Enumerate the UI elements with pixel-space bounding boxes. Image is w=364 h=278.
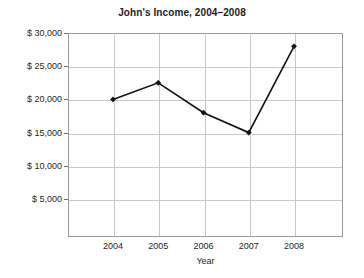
gridline-horizontal <box>69 100 342 101</box>
gridline-vertical <box>250 34 251 236</box>
y-tick-label: $ 25,000 <box>0 61 62 71</box>
plot-area <box>68 33 343 237</box>
y-tick-mark <box>64 199 68 200</box>
x-tick-label: 2006 <box>179 241 229 251</box>
chart-title: John's Income, 2004–2008 <box>0 7 364 18</box>
gridline-vertical <box>159 34 160 236</box>
x-tick-label: 2008 <box>269 241 319 251</box>
gridline-vertical <box>114 34 115 236</box>
x-tick-label: 2004 <box>88 241 138 251</box>
x-tick-label: 2005 <box>133 241 183 251</box>
y-tick-mark <box>64 66 68 67</box>
y-tick-label: $ 20,000 <box>0 94 62 104</box>
gridline-horizontal <box>69 134 342 135</box>
y-tick-mark <box>64 133 68 134</box>
y-tick-label: $ 10,000 <box>0 161 62 171</box>
x-tick-label: 2007 <box>224 241 274 251</box>
x-axis-title: Year <box>68 256 343 266</box>
y-tick-label: $ 15,000 <box>0 128 62 138</box>
gridline-vertical <box>295 34 296 236</box>
y-tick-label: $ 5,000 <box>0 194 62 204</box>
y-tick-label: $ 30,000 <box>0 28 62 38</box>
y-tick-mark <box>64 166 68 167</box>
gridline-vertical <box>205 34 206 236</box>
y-tick-mark <box>64 33 68 34</box>
line-chart-figure: John's Income, 2004–2008 $ 30,000$ 25,00… <box>0 0 364 278</box>
gridline-horizontal <box>69 67 342 68</box>
y-tick-mark <box>64 99 68 100</box>
gridline-horizontal <box>69 167 342 168</box>
gridline-horizontal <box>69 200 342 201</box>
